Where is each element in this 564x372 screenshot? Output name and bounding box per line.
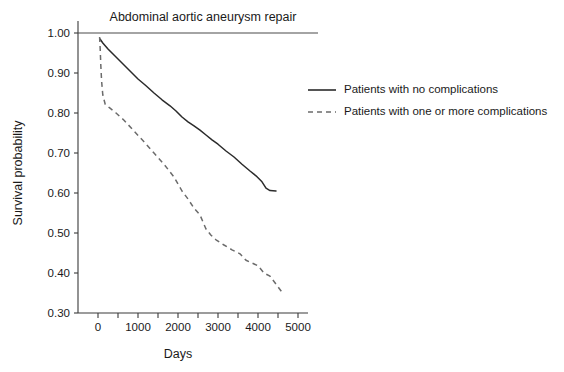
y-tick-label-0.70: 0.70: [48, 147, 70, 159]
legend-group: Patients with no complicationsPatients w…: [308, 83, 548, 117]
x-tick-label-4000: 4000: [245, 321, 271, 333]
y-axis-title: Survival probability: [11, 120, 25, 226]
y-tick-label-0.60: 0.60: [48, 187, 70, 199]
legend-label-1: Patients with no complications: [344, 83, 498, 95]
labels-group: 0.300.400.500.600.700.800.901.0001000200…: [11, 10, 311, 361]
x-tick-label-5000: 5000: [285, 321, 311, 333]
series-group: [100, 37, 282, 292]
x-tick-label-0: 0: [95, 321, 101, 333]
legend-label-2: Patients with one or more complications: [344, 105, 548, 117]
axes-group: [74, 21, 318, 318]
chart-title: Abdominal aortic aneurysm repair: [110, 10, 297, 24]
series-line-1: [100, 39, 276, 191]
x-tick-label-3000: 3000: [205, 321, 231, 333]
x-axis-title: Days: [164, 347, 192, 361]
y-tick-label-1.00: 1.00: [48, 27, 70, 39]
x-tick-label-1000: 1000: [125, 321, 151, 333]
figure-container: 0.300.400.500.600.700.800.901.0001000200…: [0, 0, 564, 372]
x-tick-label-2000: 2000: [165, 321, 191, 333]
y-tick-label-0.30: 0.30: [48, 307, 70, 319]
survival-chart: 0.300.400.500.600.700.800.901.0001000200…: [0, 0, 564, 372]
y-tick-label-0.90: 0.90: [48, 67, 70, 79]
series-line-2: [100, 37, 282, 292]
y-tick-label-0.40: 0.40: [48, 267, 70, 279]
y-tick-label-0.50: 0.50: [48, 227, 70, 239]
y-tick-label-0.80: 0.80: [48, 107, 70, 119]
